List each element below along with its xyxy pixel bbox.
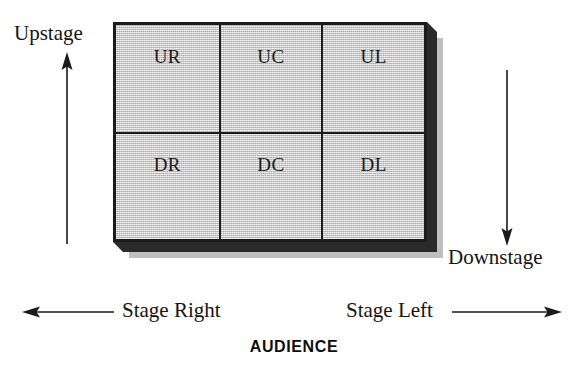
stage-cell-label: UR [154, 46, 181, 68]
stage-cell-dl[interactable]: DL [321, 132, 424, 239]
stage-cell-dr[interactable]: DR [116, 132, 219, 239]
stage-cell-label: DC [257, 154, 284, 176]
stage-left-label: Stage Left [346, 298, 433, 323]
audience-label: AUDIENCE [0, 338, 588, 356]
stage-grid: UR UC UL DR DC DL [113, 22, 427, 242]
stage-left-arrow-icon [452, 300, 562, 324]
stage-cell-ur[interactable]: UR [116, 25, 219, 132]
stage-platform: UR UC UL DR DC DL [113, 22, 445, 260]
stage-cell-dc[interactable]: DC [219, 132, 322, 239]
stage-cell-label: UC [257, 46, 284, 68]
stage-cell-label: DR [154, 154, 181, 176]
stage-cell-uc[interactable]: UC [219, 25, 322, 132]
stage-cell-label: UL [360, 46, 386, 68]
downstage-arrow-icon [492, 70, 522, 246]
downstage-label: Downstage [448, 245, 542, 270]
upstage-arrow-icon [52, 52, 82, 244]
stage-right-label: Stage Right [122, 298, 221, 323]
stage-diagram: UR UC UL DR DC DL Upstage Dow [0, 0, 588, 368]
stage-right-arrow-icon [22, 300, 114, 324]
upstage-label: Upstage [14, 21, 83, 46]
stage-cell-ul[interactable]: UL [321, 25, 424, 132]
stage-cell-label: DL [360, 154, 386, 176]
